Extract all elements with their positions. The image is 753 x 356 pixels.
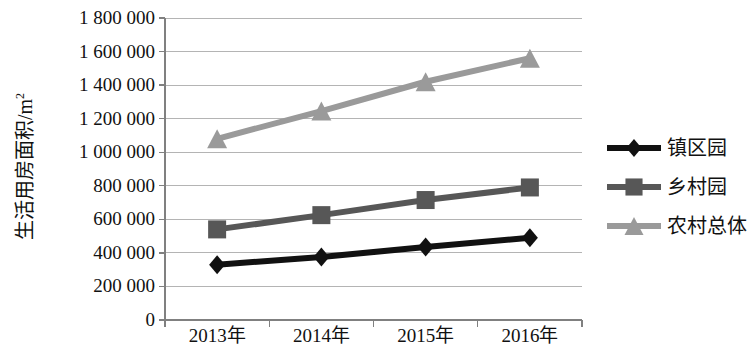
line-chart: 生活用房面积/m2 1 800 0001 600 0001 400 0001 2…: [0, 0, 753, 356]
legend-item-2[interactable]: 乡村园: [605, 167, 753, 206]
legend-key-diamond-icon: [605, 137, 663, 159]
legend-key-glyph: [605, 215, 663, 237]
x-axis-tick-label: 2016年: [470, 325, 590, 347]
legend-key-glyph: [605, 137, 663, 159]
legend-label: 农村总体: [663, 215, 747, 237]
legend-label: 镇区园: [663, 137, 727, 159]
chart-legend: 镇区园乡村园农村总体: [605, 128, 753, 245]
legend-key-square-icon: [605, 176, 663, 198]
legend-item-3[interactable]: 农村总体: [605, 206, 753, 245]
x-axis-tick-label: 2013年: [157, 325, 277, 347]
legend-label: 乡村园: [663, 176, 727, 198]
data-point-marker-square: [625, 178, 642, 195]
data-point-marker-diamond: [626, 138, 641, 156]
x-axis-tick-label: 2015年: [366, 325, 486, 347]
legend-key-triangle-icon: [605, 215, 663, 237]
x-axis-tick-label: 2014年: [261, 325, 381, 347]
legend-item-1[interactable]: 镇区园: [605, 128, 753, 167]
legend-key-glyph: [605, 176, 663, 198]
